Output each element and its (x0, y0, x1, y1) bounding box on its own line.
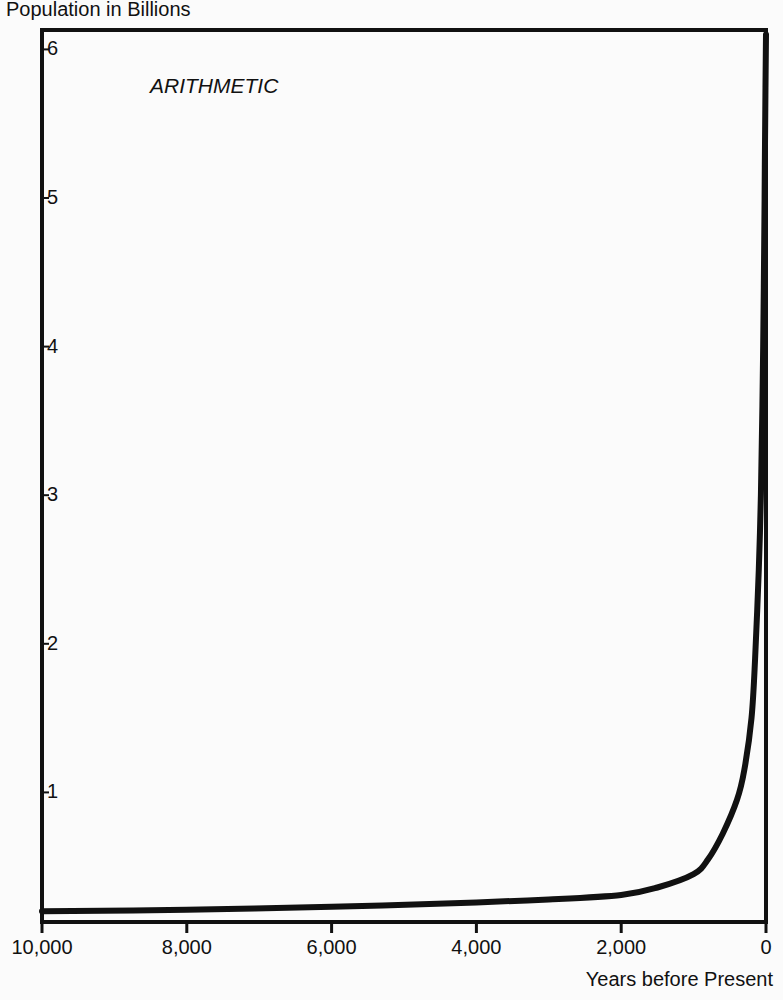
plot-area (0, 0, 783, 1000)
x-tick-label: 0 (760, 936, 771, 959)
x-axis-title: Years before Present (586, 968, 773, 991)
y-tick-label: 4 (47, 335, 58, 358)
x-tick-label: 4,000 (451, 936, 501, 959)
y-tick-label: 5 (47, 186, 58, 209)
x-tick-label: 6,000 (307, 936, 357, 959)
y-tick-label: 2 (47, 632, 58, 655)
y-tick-label: 6 (47, 37, 58, 60)
x-tick-label: 10,000 (11, 936, 72, 959)
population-curve (42, 35, 766, 912)
y-tick-label: 3 (47, 483, 58, 506)
y-tick-label: 1 (47, 780, 58, 803)
x-tick-label: 8,000 (162, 936, 212, 959)
x-tick-label: 2,000 (596, 936, 646, 959)
plot-frame (42, 30, 766, 922)
